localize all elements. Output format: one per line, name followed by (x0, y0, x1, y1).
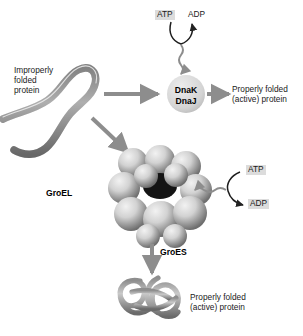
adp-label-top: ADP (188, 10, 205, 20)
folded-protein (120, 272, 178, 317)
groel-complex (108, 145, 212, 248)
atp-adp-arc-top (170, 22, 192, 44)
adp-label-right: ADP (248, 199, 269, 209)
dnaj-label: DnaJ (167, 96, 205, 106)
atp-wavy-connector-top (179, 45, 183, 74)
properly-folded-top-label: Properly folded (active) protein (232, 85, 288, 105)
chaperone-folding-diagram: Improperly folded protein DnaK DnaJ Prop… (0, 0, 303, 336)
properly-folded-bottom-label: Properly folded (active) protein (190, 293, 246, 313)
improperly-folded-label: Improperly folded protein (14, 66, 53, 95)
atp-adp-arc-right (228, 172, 244, 205)
atp-label-right: ATP (246, 165, 266, 175)
groes-label: GroES (160, 247, 187, 257)
atp-label-top: ATP (155, 10, 175, 20)
groel-label: GroEL (46, 188, 72, 198)
dnak-label: DnaK (167, 85, 205, 95)
arrow-to-groel (92, 118, 128, 152)
